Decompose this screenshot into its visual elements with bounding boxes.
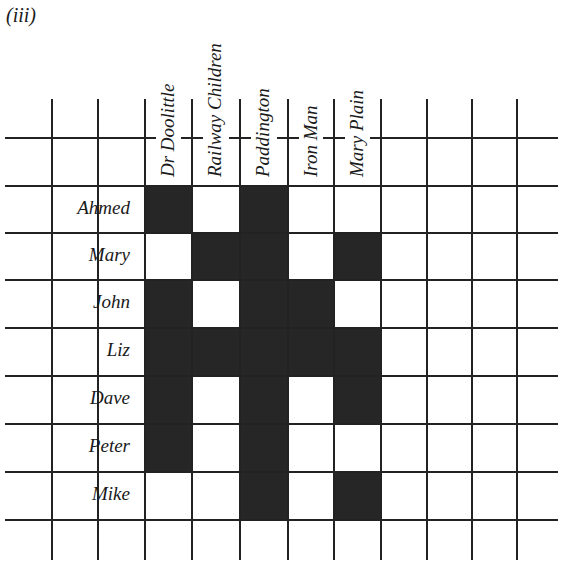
filled-cell bbox=[144, 279, 193, 329]
filled-cell bbox=[191, 232, 241, 281]
filled-cell bbox=[287, 327, 335, 377]
grid-line-horizontal bbox=[5, 423, 558, 425]
column-label-4: Mary Plain bbox=[346, 90, 368, 177]
grid-line-vertical bbox=[191, 99, 193, 560]
grid-line-vertical bbox=[333, 99, 335, 560]
grid-line-vertical bbox=[144, 99, 146, 560]
row-label-john: John bbox=[10, 291, 130, 313]
grid-line-vertical bbox=[239, 99, 241, 560]
filled-cell bbox=[239, 185, 289, 234]
row-label-peter: Peter bbox=[10, 435, 130, 457]
row-label-mike: Mike bbox=[10, 483, 130, 505]
filled-cell bbox=[239, 327, 289, 377]
row-label-mary: Mary bbox=[10, 244, 130, 266]
filled-cell bbox=[239, 375, 289, 425]
grid-line-horizontal bbox=[5, 279, 558, 281]
grid-line-horizontal bbox=[5, 519, 558, 521]
grid-line-vertical bbox=[380, 99, 382, 560]
column-label-2: Paddington bbox=[252, 88, 274, 177]
filled-cell bbox=[144, 185, 193, 234]
grid-line-vertical bbox=[516, 99, 518, 560]
grid-line-vertical bbox=[471, 99, 473, 560]
filled-cell bbox=[239, 423, 289, 473]
row-label-ahmed: Ahmed bbox=[10, 197, 130, 219]
grid-line-horizontal bbox=[5, 327, 558, 329]
filled-cell bbox=[191, 327, 241, 377]
filled-cell bbox=[287, 279, 335, 329]
filled-cell bbox=[333, 232, 382, 281]
grid-line-horizontal bbox=[5, 471, 558, 473]
row-label-dave: Dave bbox=[10, 387, 130, 409]
filled-cell bbox=[333, 375, 382, 425]
grid-line-horizontal bbox=[5, 185, 558, 187]
grid-line-vertical bbox=[287, 99, 289, 560]
filled-cell bbox=[333, 327, 382, 377]
filled-cell bbox=[144, 327, 193, 377]
column-label-0: Dr Doolittle bbox=[157, 84, 179, 177]
column-label-3: Iron Man bbox=[300, 105, 322, 177]
grid-line-horizontal bbox=[5, 232, 558, 234]
filled-cell bbox=[239, 471, 289, 521]
grid-line-horizontal bbox=[5, 375, 558, 377]
filled-cell bbox=[239, 279, 289, 329]
row-label-liz: Liz bbox=[10, 339, 130, 361]
filled-cell bbox=[333, 471, 382, 521]
filled-cell bbox=[144, 375, 193, 425]
column-label-1: Railway Children bbox=[204, 43, 226, 177]
filled-cell bbox=[239, 232, 289, 281]
grid-line-vertical bbox=[426, 99, 428, 560]
filled-cell bbox=[144, 423, 193, 473]
figure-label: (iii) bbox=[6, 4, 36, 27]
grid-line-horizontal bbox=[5, 137, 558, 139]
